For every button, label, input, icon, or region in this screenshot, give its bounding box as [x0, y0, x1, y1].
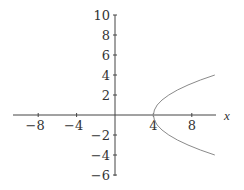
x-tick-label: −8 [26, 118, 45, 133]
x-tick-label: 4 [149, 118, 157, 133]
x-tick-label: 8 [188, 118, 196, 133]
y-tick-label: 6 [102, 48, 110, 63]
x-tick-label: −4 [64, 118, 83, 133]
y-axis: −6−4−2246810 [91, 8, 117, 183]
chart: −8−448 x −6−4−2246810 [0, 0, 244, 190]
y-tick-label: −6 [91, 168, 110, 183]
y-tick-label: −2 [91, 128, 110, 143]
y-tick-label: −4 [91, 148, 110, 163]
y-tick-label: 10 [93, 8, 110, 23]
y-tick-label: 4 [102, 68, 110, 83]
y-tick-label: 2 [102, 88, 110, 103]
x-axis: −8−448 x [13, 108, 230, 133]
x-axis-label: x [223, 108, 230, 123]
y-tick-label: 8 [102, 28, 110, 43]
